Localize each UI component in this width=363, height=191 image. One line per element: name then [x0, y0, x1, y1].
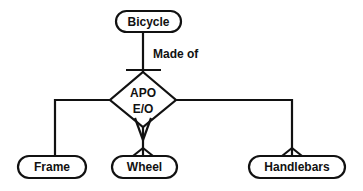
entity-bicycle-label: Bicycle [127, 15, 169, 29]
entity-handlebars[interactable]: Handlebars [249, 156, 345, 178]
connector-line2: E/O [133, 102, 154, 116]
entity-frame[interactable]: Frame [18, 156, 86, 178]
connector-handlebars-line [176, 100, 302, 156]
entity-frame-label: Frame [34, 160, 70, 174]
connector-frame-line [55, 100, 110, 156]
entity-wheel-label: Wheel [127, 160, 162, 174]
diagram-canvas: Bicycle Made of APO E/O Frame Wheel [0, 0, 363, 191]
connector-diamond[interactable]: APO E/O [110, 72, 176, 127]
entity-wheel[interactable]: Wheel [112, 156, 177, 178]
connector-line1: APO [130, 86, 156, 100]
entity-bicycle[interactable]: Bicycle [116, 11, 181, 32]
relationship-label: Made of [153, 47, 199, 61]
entity-handlebars-label: Handlebars [264, 160, 330, 174]
